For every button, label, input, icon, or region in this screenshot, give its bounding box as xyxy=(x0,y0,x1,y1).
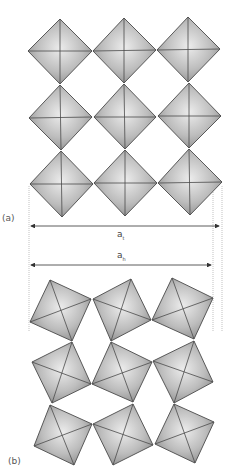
a-h-label: ah xyxy=(117,250,126,262)
octahedron xyxy=(157,17,220,82)
octahedron xyxy=(152,278,213,339)
a-t-subscript: t xyxy=(123,235,125,241)
octahedra-figure xyxy=(0,0,231,475)
octahedron xyxy=(94,84,156,149)
octahedron xyxy=(94,150,157,216)
octahedron xyxy=(92,342,152,402)
panel-a-untilted-octahedra xyxy=(28,17,222,217)
octahedron xyxy=(93,18,156,83)
octahedron xyxy=(153,341,213,403)
octahedron xyxy=(30,151,93,217)
panel-b-label: (b) xyxy=(8,456,21,466)
octahedron xyxy=(34,405,92,465)
panel-a-label: (a) xyxy=(2,213,15,223)
octahedron xyxy=(155,404,214,463)
octahedron xyxy=(158,149,222,215)
a-h-subscript: h xyxy=(123,256,126,262)
octahedron xyxy=(30,280,91,341)
octahedron xyxy=(93,279,151,341)
octahedron xyxy=(158,83,221,148)
a-t-label: at xyxy=(117,229,124,241)
octahedron xyxy=(93,404,153,465)
panel-b-tilted-octahedra xyxy=(30,278,214,465)
octahedron xyxy=(28,19,92,84)
octahedron xyxy=(29,85,92,150)
octahedron xyxy=(32,342,91,403)
